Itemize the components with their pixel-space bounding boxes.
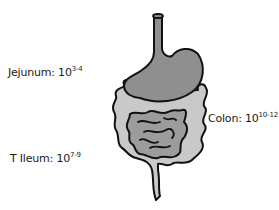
ileum-label: T Ileum: 107-9 bbox=[10, 152, 81, 165]
small-intestine-shape bbox=[127, 110, 187, 159]
jejunum-label: Jejunum: 103-4 bbox=[8, 66, 83, 79]
colon-label: Colon: 1010-12 bbox=[208, 112, 278, 125]
digestive-tract-diagram bbox=[0, 0, 279, 210]
stomach-shape bbox=[124, 16, 203, 101]
esophagus-opening bbox=[153, 14, 163, 18]
